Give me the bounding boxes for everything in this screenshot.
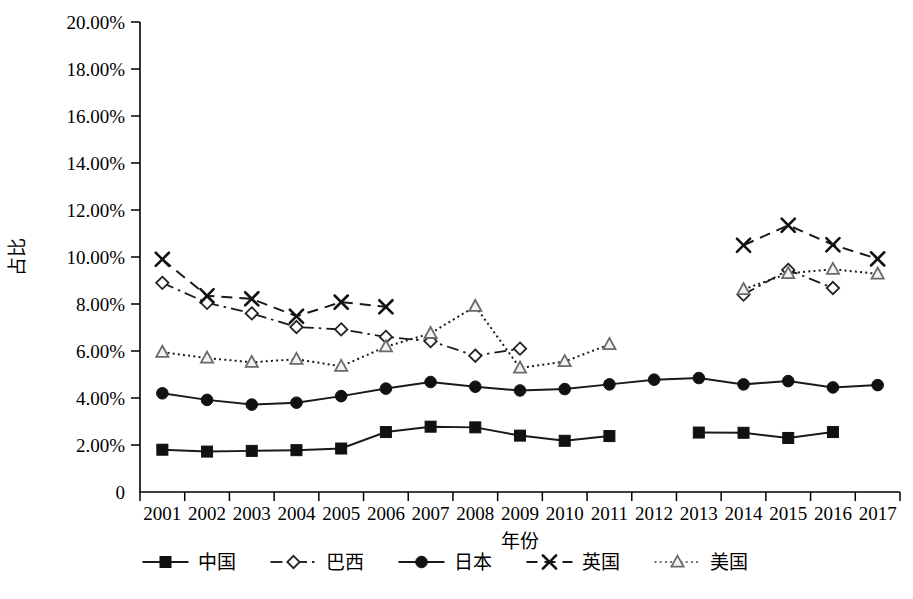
x-tick-label: 2013 bbox=[680, 503, 718, 524]
marker-triangle bbox=[425, 327, 437, 338]
marker-circle bbox=[201, 394, 213, 406]
marker-diamond bbox=[469, 350, 481, 362]
y-axis-title: 占比 bbox=[6, 238, 28, 276]
marker-circle bbox=[738, 379, 750, 391]
marker-triangle bbox=[201, 352, 213, 363]
y-tick-label: 8.00% bbox=[76, 294, 125, 315]
series-line bbox=[744, 225, 878, 259]
marker-circle bbox=[416, 556, 428, 568]
marker-circle bbox=[648, 374, 660, 386]
marker-circle bbox=[157, 388, 169, 400]
marker-square bbox=[380, 427, 391, 438]
x-tick-label: 2005 bbox=[322, 503, 360, 524]
x-tick-label: 2003 bbox=[233, 503, 271, 524]
y-tick-label: 20.00% bbox=[66, 12, 125, 33]
marker-circle bbox=[782, 375, 794, 387]
series-英国 bbox=[156, 219, 884, 323]
x-tick-label: 2009 bbox=[501, 503, 539, 524]
series-line bbox=[162, 259, 386, 316]
marker-diamond bbox=[827, 282, 839, 294]
x-axis: 2001200220032004200520062007200820092010… bbox=[140, 492, 900, 524]
legend-label: 中国 bbox=[198, 551, 236, 573]
legend-label: 英国 bbox=[582, 551, 620, 573]
y-axis: 02.00%4.00%6.00%8.00%10.00%12.00%14.00%1… bbox=[66, 12, 140, 503]
legend-item-日本[interactable]: 日本 bbox=[399, 551, 492, 573]
marker-circle bbox=[872, 379, 884, 391]
x-tick-label: 2017 bbox=[859, 503, 897, 524]
marker-circle bbox=[514, 385, 526, 397]
y-tick-label: 4.00% bbox=[76, 388, 125, 409]
marker-diamond bbox=[514, 342, 526, 354]
y-tick-label: 6.00% bbox=[76, 341, 125, 362]
legend-label: 日本 bbox=[454, 551, 492, 573]
x-tick-label: 2010 bbox=[546, 503, 584, 524]
x-tick-label: 2015 bbox=[769, 503, 807, 524]
marker-circle bbox=[827, 382, 839, 394]
marker-diamond bbox=[287, 556, 299, 568]
chart-container: 02.00%4.00%6.00%8.00%10.00%12.00%14.00%1… bbox=[0, 0, 913, 599]
marker-triangle bbox=[872, 268, 884, 279]
marker-square bbox=[202, 446, 213, 457]
y-tick-label: 0 bbox=[116, 482, 126, 503]
y-tick-label: 12.00% bbox=[66, 200, 125, 221]
x-tick-label: 2007 bbox=[412, 503, 450, 524]
y-tick-label: 16.00% bbox=[66, 106, 125, 127]
marker-circle bbox=[380, 383, 392, 395]
marker-triangle bbox=[827, 263, 839, 274]
marker-cross bbox=[826, 238, 839, 251]
marker-triangle bbox=[335, 360, 347, 371]
marker-cross bbox=[871, 252, 884, 265]
marker-square bbox=[157, 444, 168, 455]
y-tick-label: 18.00% bbox=[66, 59, 125, 80]
marker-triangle bbox=[380, 340, 392, 351]
legend-label: 美国 bbox=[710, 551, 748, 573]
line-chart: 02.00%4.00%6.00%8.00%10.00%12.00%14.00%1… bbox=[0, 0, 913, 599]
marker-circle bbox=[335, 390, 347, 402]
marker-cross bbox=[156, 253, 169, 266]
marker-circle bbox=[604, 379, 616, 391]
marker-triangle bbox=[156, 346, 168, 357]
marker-square bbox=[559, 435, 570, 446]
marker-triangle bbox=[290, 353, 302, 364]
marker-cross bbox=[737, 239, 750, 252]
x-tick-label: 2008 bbox=[456, 503, 494, 524]
legend-item-巴西[interactable]: 巴西 bbox=[271, 551, 364, 573]
marker-square bbox=[738, 427, 749, 438]
marker-square bbox=[425, 421, 436, 432]
legend-item-英国[interactable]: 英国 bbox=[527, 551, 620, 573]
marker-square bbox=[160, 557, 171, 568]
marker-square bbox=[246, 445, 257, 456]
series-line bbox=[699, 432, 833, 438]
y-tick-label: 10.00% bbox=[66, 247, 125, 268]
marker-square bbox=[470, 422, 481, 433]
marker-square bbox=[515, 430, 526, 441]
marker-diamond bbox=[290, 321, 302, 333]
axis-lines bbox=[140, 22, 900, 492]
x-tick-label: 2011 bbox=[591, 503, 628, 524]
legend-item-中国[interactable]: 中国 bbox=[143, 551, 236, 573]
legend-item-美国[interactable]: 美国 bbox=[655, 551, 748, 573]
marker-diamond bbox=[246, 307, 258, 319]
legend-label: 巴西 bbox=[326, 551, 364, 573]
marker-cross bbox=[782, 219, 795, 232]
x-tick-label: 2001 bbox=[143, 503, 181, 524]
marker-square bbox=[783, 432, 794, 443]
x-tick-label: 2014 bbox=[725, 503, 764, 524]
marker-triangle bbox=[603, 338, 615, 349]
series-巴西 bbox=[156, 264, 839, 362]
marker-square bbox=[693, 427, 704, 438]
marker-diamond bbox=[156, 277, 168, 289]
x-tick-label: 2006 bbox=[367, 503, 405, 524]
x-tick-label: 2012 bbox=[635, 503, 673, 524]
marker-circle bbox=[246, 399, 258, 411]
marker-circle bbox=[469, 381, 481, 393]
series-日本 bbox=[157, 372, 884, 410]
marker-circle bbox=[425, 376, 437, 388]
series-line bbox=[162, 283, 520, 356]
x-tick-label: 2002 bbox=[188, 503, 226, 524]
legend: 中国巴西日本英国美国 bbox=[143, 551, 748, 573]
marker-square bbox=[827, 427, 838, 438]
x-axis-title: 年份 bbox=[501, 530, 539, 552]
marker-triangle bbox=[514, 362, 526, 373]
axes-group bbox=[140, 22, 900, 492]
